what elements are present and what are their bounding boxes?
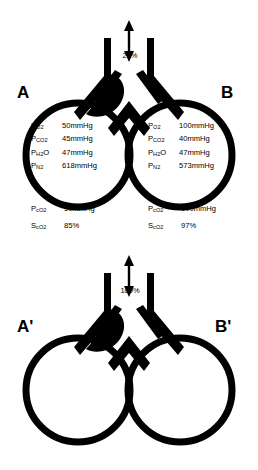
capillary-values-A: PcO250mmHg ScO285% — [31, 200, 95, 234]
inspired-oxygen-percent-bottom: 100% — [110, 287, 150, 295]
capillary-row: PcO2100mmHg — [148, 200, 216, 217]
unit-label-B: B — [221, 84, 233, 101]
gas-row: PCO245mmHg — [31, 132, 97, 145]
gas-row: PH2O47mmHg — [148, 146, 214, 159]
unit-label-B-prime: B' — [215, 318, 231, 335]
alveolus-A-prime — [26, 338, 130, 442]
capillary-values-B: PcO2100mmHg ScO297% — [148, 200, 216, 234]
gas-row: PCO240mmHg — [148, 132, 214, 145]
unit-label-A: A — [17, 84, 29, 101]
gas-row: PO250mmHg — [31, 119, 97, 132]
gas-row: PN2618mmHg — [31, 159, 97, 172]
capillary-row: ScO285% — [31, 217, 95, 234]
capillary-row: PcO250mmHg — [31, 200, 95, 217]
airway-alveoli-diagram-bottom — [0, 235, 258, 470]
gas-row: PH2O47mmHg — [31, 146, 97, 159]
unit-label-A-prime: A' — [17, 318, 33, 335]
capillary-row: ScO297% — [148, 217, 216, 234]
gas-row: PO2100mmHg — [148, 119, 214, 132]
inspired-oxygen-percent-top: 21% — [110, 52, 150, 60]
alveolus-B-prime — [128, 338, 232, 442]
panel-normal-air: A B 21% PO250mmHg PCO245mmHg PH2O47mmHg … — [0, 0, 258, 235]
gas-row: PN2573mmHg — [148, 159, 214, 172]
gas-values-B: PO2100mmHg PCO240mmHg PH2O47mmHg PN2573m… — [148, 119, 214, 173]
panel-hundred-percent-oxygen: A' B' 100% PO2668mmHg PCO245mmHg PH2O47m… — [0, 235, 258, 470]
gas-values-A: PO250mmHg PCO245mmHg PH2O47mmHg PN2618mm… — [31, 119, 97, 173]
